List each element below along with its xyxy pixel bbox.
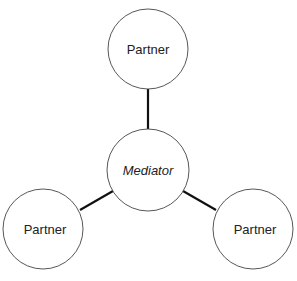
edge-center-left bbox=[80, 191, 113, 210]
edge-center-right bbox=[183, 191, 216, 210]
node-left-partner: Partner bbox=[3, 189, 83, 269]
node-label: Partner bbox=[24, 222, 67, 237]
node-mediator: Mediator bbox=[107, 129, 189, 211]
mediator-diagram: Partner Mediator Partner Partner bbox=[0, 0, 297, 281]
node-label: Partner bbox=[234, 222, 277, 237]
node-label: Mediator bbox=[123, 163, 174, 178]
node-right-partner: Partner bbox=[213, 189, 293, 269]
node-top-partner: Partner bbox=[108, 9, 188, 89]
node-label: Partner bbox=[127, 42, 170, 57]
